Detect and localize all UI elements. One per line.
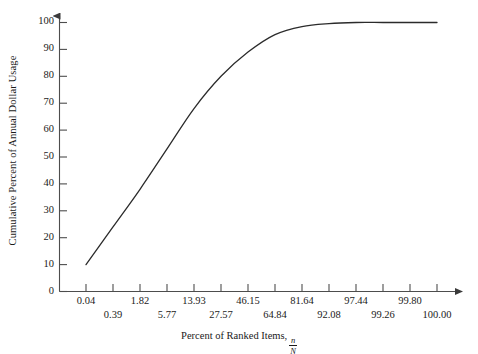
fraction-numerator: n [290, 336, 296, 345]
y-tick-label-0: 0 [26, 285, 54, 296]
abc-analysis-chart: Cumulative Percent of Annual Dollar Usag… [0, 0, 478, 354]
y-axis [60, 16, 68, 292]
y-tick-label-10: 10 [26, 258, 54, 269]
x-tick-label-6: 46.15 [228, 295, 268, 306]
x-tick-label-10: 97.44 [336, 295, 376, 306]
y-tick-label-60: 60 [26, 123, 54, 134]
x-axis [60, 284, 463, 292]
y-axis-title-text: Cumulative Percent of Annual Dollar Usag… [8, 55, 19, 245]
y-tick-label-40: 40 [26, 177, 54, 188]
x-tick-label-1: 0.39 [93, 309, 133, 320]
y-tick-label-70: 70 [26, 96, 54, 107]
x-tick-label-7: 64.84 [255, 309, 295, 320]
x-tick-label-13: 100.00 [417, 309, 457, 320]
x-tick-label-5: 27.57 [201, 309, 241, 320]
x-tick-label-8: 81.64 [282, 295, 322, 306]
y-tick-label-20: 20 [26, 231, 54, 242]
x-tick-label-3: 5.77 [147, 309, 187, 320]
x-tick-label-2: 1.82 [120, 295, 160, 306]
x-axis-title: Percent of Ranked Items,nN [0, 330, 478, 354]
y-tick-label-90: 90 [26, 42, 54, 53]
cumulative-usage-curve [86, 22, 437, 264]
x-tick-label-12: 99.80 [390, 295, 430, 306]
fraction-denominator: N [289, 345, 297, 354]
y-tick-label-50: 50 [26, 150, 54, 161]
x-tick-label-4: 13.93 [174, 295, 214, 306]
x-tick-label-11: 99.26 [363, 309, 403, 320]
y-tick-label-80: 80 [26, 69, 54, 80]
x-tick-label-9: 92.08 [309, 309, 349, 320]
y-axis-title: Cumulative Percent of Annual Dollar Usag… [0, 0, 26, 300]
y-tick-label-100: 100 [26, 15, 54, 26]
x-tick-label-0: 0.04 [66, 295, 106, 306]
y-tick-label-30: 30 [26, 204, 54, 215]
x-axis-title-text: Percent of Ranked Items, [181, 330, 287, 341]
x-axis-title-fraction: nN [289, 336, 297, 354]
